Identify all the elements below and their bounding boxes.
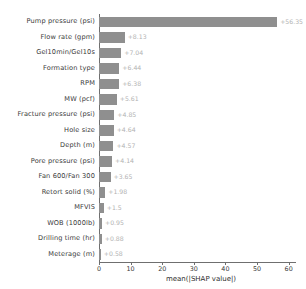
bar-row: Pore pressure (psi)+4.14 <box>99 154 134 170</box>
bar-row: Drilling time (hr)+0.88 <box>99 231 124 247</box>
x-axis-tick-label: 60 <box>285 266 293 272</box>
bar-value-label: +8.13 <box>128 34 147 40</box>
bar-value-label: +0.95 <box>105 220 124 226</box>
bar-category-label: MW (pcf) <box>64 96 95 103</box>
bar-value-label: +56.35 <box>280 19 303 25</box>
bar-row: RPM+6.38 <box>99 76 141 92</box>
bar-value-label: +4.57 <box>116 143 135 149</box>
bar-category-label: WOB (1000lb) <box>47 220 95 227</box>
bar-category-label: Meterage (m) <box>48 251 95 258</box>
bar-value-label: +4.14 <box>115 158 134 164</box>
x-axis-tick-label: 40 <box>221 266 229 272</box>
x-axis-tick-label: 0 <box>97 266 101 272</box>
bar-rect <box>99 125 114 136</box>
bar-category-label: Drilling time (hr) <box>38 235 95 242</box>
bar-row: Retort solid (%)+1.98 <box>99 185 127 201</box>
bar-category-label: Pore pressure (psi) <box>31 158 95 165</box>
bar-value-label: +1.5 <box>107 205 122 211</box>
bar-rect <box>99 32 125 43</box>
bar-row: MW (pcf)+5.61 <box>99 92 139 108</box>
bar-row: Formation type+6.44 <box>99 61 141 77</box>
bar-category-label: RPM <box>80 80 95 87</box>
bar-rect <box>99 156 112 167</box>
bar-category-label: Depth (m) <box>60 142 95 149</box>
bar-rect <box>99 63 119 74</box>
bar-row: Meterage (m)+0.58 <box>99 247 123 263</box>
bar-category-label: Formation type <box>43 65 95 72</box>
x-axis-line <box>99 262 296 263</box>
bar-row: WOB (1000lb)+0.95 <box>99 216 124 232</box>
bar-value-label: +3.65 <box>114 174 133 180</box>
bar-value-label: +5.61 <box>120 96 139 102</box>
bar-row: Pump pressure (psi)+56.35 <box>99 14 303 30</box>
bar-value-label: +4.85 <box>117 112 136 118</box>
bar-category-label: Fracture pressure (psi) <box>18 111 95 118</box>
bar-category-label: MFVIS <box>74 204 95 211</box>
bar-category-label: Hole size <box>64 127 95 134</box>
bar-rect <box>99 249 101 260</box>
bar-rect <box>99 79 119 90</box>
bar-category-label: Flow rate (gpm) <box>40 34 95 41</box>
bar-rect <box>99 94 117 105</box>
bar-rect <box>99 17 277 28</box>
bar-row: Fracture pressure (psi)+4.85 <box>99 107 136 123</box>
bar-row: Fan 600/Fan 300+3.65 <box>99 169 133 185</box>
bar-rect <box>99 234 102 245</box>
bar-category-label: Fan 600/Fan 300 <box>39 173 95 180</box>
bar-row: Depth (m)+4.57 <box>99 138 135 154</box>
shap-feature-importance-chart: Pump pressure (psi)+56.35Flow rate (gpm)… <box>0 0 306 289</box>
bar-rect <box>99 172 111 183</box>
bar-rect <box>99 203 104 214</box>
bar-category-label: Pump pressure (psi) <box>27 18 95 25</box>
bar-value-label: +0.88 <box>105 236 124 242</box>
x-axis-tick-label: 10 <box>127 266 135 272</box>
bar-rect <box>99 187 105 198</box>
bar-value-label: +1.98 <box>108 189 127 195</box>
bar-row: MFVIS+1.5 <box>99 200 122 216</box>
bar-row: Flow rate (gpm)+8.13 <box>99 30 147 46</box>
bar-value-label: +6.38 <box>122 81 141 87</box>
bar-category-label: Retort solid (%) <box>42 189 95 196</box>
bar-category-label: Gel10min/Gel10s <box>36 49 95 56</box>
bar-value-label: +0.58 <box>104 251 123 257</box>
x-axis-tick-label: 30 <box>190 266 198 272</box>
bar-row: Gel10min/Gel10s+7.04 <box>99 45 143 61</box>
bar-value-label: +6.44 <box>122 65 141 71</box>
x-axis-tick-label: 50 <box>253 266 261 272</box>
x-axis-tick-label: 20 <box>158 266 166 272</box>
bar-rect <box>99 48 121 59</box>
bar-rect <box>99 110 114 121</box>
bar-value-label: +7.04 <box>124 50 143 56</box>
bar-rect <box>99 141 113 152</box>
x-axis-title: mean(|SHAP value|) <box>0 276 306 283</box>
bar-value-label: +4.64 <box>117 127 136 133</box>
bar-row: Hole size+4.64 <box>99 123 136 139</box>
bar-rect <box>99 218 102 229</box>
